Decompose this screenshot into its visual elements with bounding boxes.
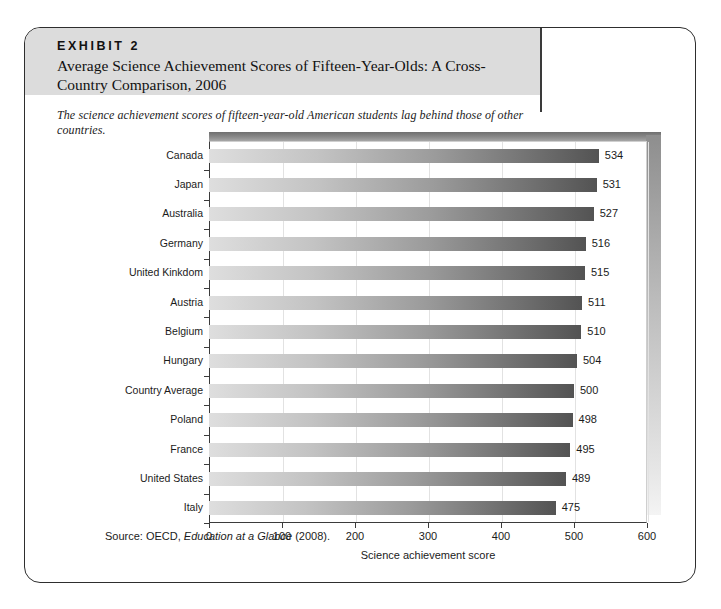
y-axis-tick bbox=[204, 170, 209, 171]
bar-value-label: 510 bbox=[587, 325, 605, 337]
bar bbox=[209, 149, 599, 163]
bar bbox=[209, 501, 556, 515]
y-axis-tick bbox=[204, 288, 209, 289]
category-label: Italy bbox=[184, 501, 203, 513]
category-label: Austria bbox=[170, 296, 203, 308]
gridline bbox=[648, 142, 649, 522]
category-label: Australia bbox=[162, 207, 203, 219]
exhibit-kicker: EXHIBIT 2 bbox=[57, 39, 140, 53]
bar-value-label: 531 bbox=[603, 178, 621, 190]
y-axis-tick bbox=[204, 376, 209, 377]
source-note: Source: OECD, Education at a Glance (200… bbox=[105, 530, 625, 542]
bar-value-label: 498 bbox=[579, 413, 597, 425]
bar bbox=[209, 266, 585, 280]
x-axis-tick bbox=[355, 523, 356, 528]
bar bbox=[209, 384, 574, 398]
plot-top-cap bbox=[209, 132, 661, 141]
bar-value-label: 511 bbox=[588, 296, 606, 308]
bar-value-label: 504 bbox=[583, 354, 601, 366]
source-suffix: (2008). bbox=[292, 530, 330, 542]
exhibit-title: Average Science Achievement Scores of Fi… bbox=[57, 56, 527, 94]
bar-value-label: 534 bbox=[605, 149, 623, 161]
x-axis-tick-label: 600 bbox=[638, 530, 656, 542]
category-label: United States bbox=[140, 472, 203, 484]
bar bbox=[209, 472, 566, 486]
bar bbox=[209, 178, 597, 192]
bar-value-label: 515 bbox=[591, 266, 609, 278]
y-axis-tick bbox=[204, 464, 209, 465]
bar bbox=[209, 443, 570, 457]
category-label: Germany bbox=[160, 237, 203, 249]
y-axis-tick bbox=[204, 494, 209, 495]
x-axis-title: Science achievement score bbox=[209, 549, 647, 561]
bar-value-label: 527 bbox=[600, 207, 618, 219]
header-divider bbox=[540, 28, 542, 112]
source-italic-title: Education at a Glance bbox=[184, 530, 292, 542]
x-axis-tick bbox=[647, 523, 648, 528]
category-label: Country Average bbox=[125, 384, 203, 396]
x-axis-tick bbox=[501, 523, 502, 528]
bar bbox=[209, 296, 582, 310]
bar-value-label: 475 bbox=[562, 501, 580, 513]
y-axis-tick bbox=[204, 259, 209, 260]
category-label: Belgium bbox=[165, 325, 203, 337]
category-label: France bbox=[170, 443, 203, 455]
x-axis-tick bbox=[282, 523, 283, 528]
bar bbox=[209, 207, 594, 221]
category-label: Hungary bbox=[163, 354, 203, 366]
bar bbox=[209, 413, 573, 427]
bar-value-label: 500 bbox=[580, 384, 598, 396]
y-axis-tick bbox=[204, 200, 209, 201]
bar-chart: 534531527516515511510504500498495489475 … bbox=[129, 132, 669, 552]
bar-value-label: 495 bbox=[576, 443, 594, 455]
category-label: United Kinkdom bbox=[129, 266, 203, 278]
exhibit-card: EXHIBIT 2 Average Science Achievement Sc… bbox=[24, 27, 696, 583]
bar-value-label: 516 bbox=[592, 237, 610, 249]
bar bbox=[209, 237, 586, 251]
source-prefix: Source: OECD, bbox=[105, 530, 184, 542]
x-axis-tick bbox=[574, 523, 575, 528]
category-label: Poland bbox=[170, 413, 203, 425]
bar bbox=[209, 325, 581, 339]
y-axis-tick bbox=[204, 317, 209, 318]
x-axis-tick bbox=[428, 523, 429, 528]
bar-value-label: 489 bbox=[572, 472, 590, 484]
bar bbox=[209, 354, 577, 368]
x-axis-tick bbox=[209, 523, 210, 528]
y-axis-tick bbox=[204, 435, 209, 436]
y-axis-tick bbox=[204, 229, 209, 230]
category-label: Japan bbox=[174, 178, 203, 190]
y-axis-tick bbox=[204, 405, 209, 406]
y-axis-tick bbox=[204, 347, 209, 348]
category-label: Canada bbox=[166, 149, 203, 161]
